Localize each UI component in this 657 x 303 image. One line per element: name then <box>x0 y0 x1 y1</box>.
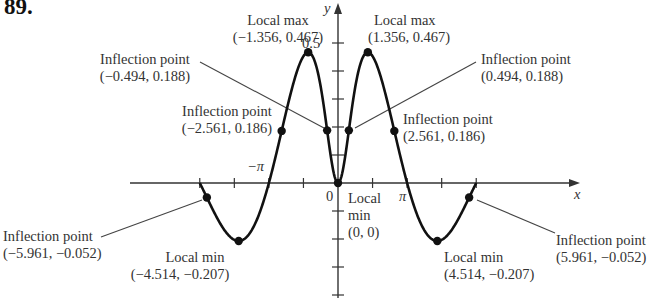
critical-point-marker <box>390 127 398 135</box>
critical-point-marker <box>364 48 372 56</box>
label-localmin-origin: Local min (0, 0) <box>348 190 381 241</box>
label-infl-inner-right: Inflection point (0.494, 0.188) <box>481 51 571 85</box>
label-infl-outer-right: Inflection point (5.961, −0.052) <box>556 232 646 266</box>
y-axis-arrow <box>334 3 342 14</box>
y-axis-label: y <box>324 0 330 17</box>
label-localmin-right: Local min (4.514, −0.207) <box>444 249 534 283</box>
leader-infl-outer-right <box>477 200 555 233</box>
label-infl-inner-left: Inflection point (−0.494, 0.188) <box>94 51 196 85</box>
x-axis-label: x <box>574 186 580 203</box>
label-localmin-left: Local min (−4.514, −0.207) <box>122 249 238 283</box>
critical-point-marker <box>203 193 211 201</box>
critical-point-marker <box>323 126 331 134</box>
critical-point-marker <box>334 179 342 187</box>
leader-infl-outer-left <box>101 200 202 237</box>
tick-label-neg-pi: −π <box>247 158 264 175</box>
label-infl-mid-left: Inflection point (−2.561, 0.186) <box>174 103 280 137</box>
label-infl-outer-left: Inflection point (−5.961, −0.052) <box>3 228 102 262</box>
tick-label-zero: 0 <box>326 188 333 205</box>
critical-point-marker <box>234 237 242 245</box>
critical-point-marker <box>345 126 353 134</box>
critical-point-marker <box>465 193 473 201</box>
tick-label-pi: π <box>399 188 406 205</box>
tick-label-half: 0.5 <box>302 35 320 52</box>
label-localmax-right: Local max (1.356, 0.467) <box>368 12 450 46</box>
critical-point-marker <box>433 237 441 245</box>
label-infl-mid-right: Inflection point (2.561, 0.186) <box>403 111 493 145</box>
